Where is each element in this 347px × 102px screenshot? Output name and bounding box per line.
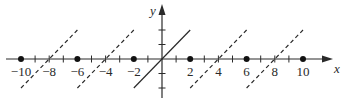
y-axis-label: y [148,3,156,18]
x-tick-label: 6 [243,64,250,79]
filled-dot [18,56,24,62]
y-axis-arrow-icon [159,4,166,15]
x-tick-label: −8 [42,64,56,79]
x-tick-label: 10 [297,64,310,79]
x-axis-arrow-icon [322,56,333,63]
x-tick-label: −6 [70,64,84,79]
x-axis-label: x [333,61,340,76]
tick-labels: −10−8−6−4−2246810xy [11,3,340,79]
x-tick-label: −4 [99,64,113,79]
filled-dot [244,56,250,62]
filled-dot [187,56,193,62]
x-tick-label: −10 [11,64,31,79]
filled-dot [74,56,80,62]
x-tick-label: 8 [272,64,279,79]
x-tick-label: 2 [187,64,194,79]
x-tick-label: 4 [215,64,222,79]
x-tick-label: −2 [127,64,141,79]
filled-dot [131,56,137,62]
filled-dot [300,56,306,62]
periodic-function-graph: −10−8−6−4−2246810xy [0,0,347,102]
